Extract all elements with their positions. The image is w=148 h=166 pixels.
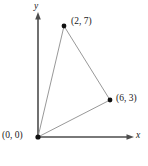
y-axis	[35, 12, 41, 138]
x-axis-label: x	[136, 131, 140, 141]
y-axis-arrowhead	[35, 12, 41, 20]
vertex-label-a: (2, 7)	[71, 17, 92, 27]
vertex-dot-a	[62, 24, 67, 29]
x-axis	[38, 134, 134, 140]
x-axis-arrowhead	[127, 134, 135, 140]
triangle-outline	[38, 26, 110, 137]
coordinate-plane-figure: (2, 7) (6, 3) (0, 0) y x	[0, 0, 148, 166]
vertex-dot-c	[35, 134, 40, 139]
vertex-label-origin: (0, 0)	[2, 131, 23, 141]
vertex-label-b: (6, 3)	[116, 94, 137, 104]
y-axis-label: y	[34, 2, 38, 12]
vertex-dot-b	[108, 98, 113, 103]
